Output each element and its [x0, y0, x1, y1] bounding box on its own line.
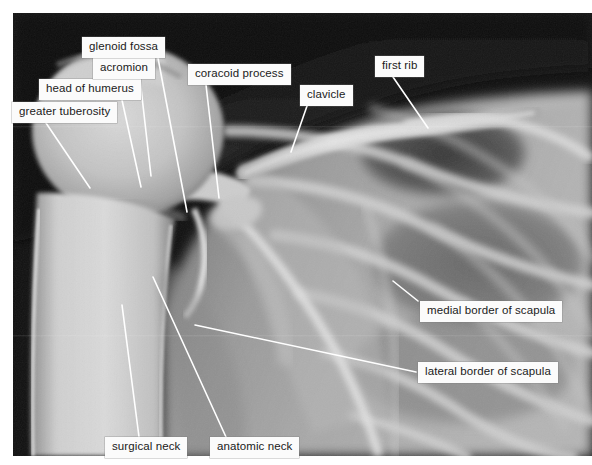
label-acromion: acromion	[93, 58, 155, 79]
figure-canvas: greater tuberosityhead of humerusacromio…	[0, 0, 592, 465]
label-clavicle: clavicle	[300, 85, 353, 106]
label-glenoid-fossa: glenoid fossa	[82, 37, 165, 58]
label-head-of-humerus: head of humerus	[39, 79, 141, 100]
label-lateral-border-of-scapula: lateral border of scapula	[418, 362, 558, 383]
label-anatomic-neck: anatomic neck	[210, 437, 299, 458]
label-medial-border-of-scapula: medial border of scapula	[420, 301, 562, 322]
label-coracoid-process: coracoid process	[188, 64, 291, 85]
label-first-rib: first rib	[375, 56, 424, 77]
label-surgical-neck: surgical neck	[105, 437, 187, 458]
label-greater-tuberosity: greater tuberosity	[12, 102, 117, 123]
